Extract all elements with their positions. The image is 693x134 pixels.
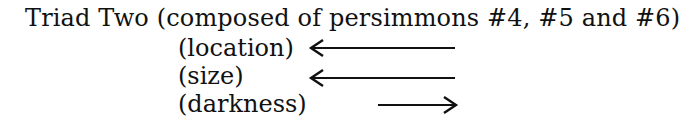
row-location: (location) — [178, 34, 294, 62]
arrow-left-icon — [308, 68, 458, 88]
label-size: (size) — [178, 62, 244, 90]
label-darkness: (darkness) — [178, 90, 307, 118]
triad-title: Triad Two (composed of persimmons #4, #5… — [25, 4, 680, 32]
row-darkness: (darkness) — [178, 90, 307, 118]
arrow-left-icon — [308, 38, 458, 58]
row-size: (size) — [178, 62, 244, 90]
label-location: (location) — [178, 34, 294, 62]
arrow-right-icon — [378, 95, 460, 115]
